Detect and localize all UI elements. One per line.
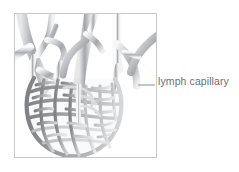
lymph-capillary-figure: lymph capillary bbox=[0, 0, 239, 172]
lymph-capillary-label: lymph capillary bbox=[158, 75, 229, 88]
illustration-panel bbox=[14, 10, 157, 158]
